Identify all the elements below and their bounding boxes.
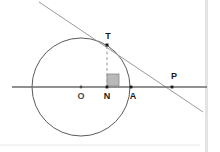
point-marker-O bbox=[80, 86, 83, 89]
point-label-O: O bbox=[77, 91, 84, 101]
point-label-P: P bbox=[171, 71, 177, 81]
right-angle-marker bbox=[107, 74, 119, 86]
page-edge-band bbox=[205, 0, 208, 152]
geometry-diagram: O N A T P bbox=[0, 0, 220, 152]
tangent-line bbox=[39, 2, 203, 112]
point-marker-A bbox=[130, 86, 133, 89]
point-label-T: T bbox=[105, 31, 111, 41]
point-label-A: A bbox=[130, 91, 137, 101]
geometry-figure-canvas: O N A T P bbox=[0, 0, 220, 152]
point-marker-N bbox=[106, 86, 109, 89]
point-marker-P bbox=[171, 86, 174, 89]
point-marker-T bbox=[106, 44, 109, 47]
point-label-N: N bbox=[104, 91, 111, 101]
